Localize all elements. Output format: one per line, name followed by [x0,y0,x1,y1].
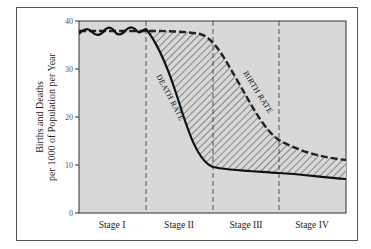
y-tick-40: 40 [65,17,73,26]
y-tick-20: 20 [65,113,73,122]
y-tick-0: 0 [69,209,73,218]
y-tick-30: 30 [65,65,73,74]
y-axis-title-line1: Births and Deaths [34,81,45,153]
stage-1-label: Stage I [99,220,126,230]
demographic-transition-chart: DEATH RATE BIRTH RATE 40 30 20 10 0 Birt… [0,0,371,249]
stage-4-label: Stage IV [295,220,329,230]
y-tick-10: 10 [65,161,73,170]
y-axis-title-line2: per 1000 of Population per Year [46,52,57,180]
stage-3-label: Stage III [230,220,263,230]
stage-2-label: Stage II [164,220,194,230]
